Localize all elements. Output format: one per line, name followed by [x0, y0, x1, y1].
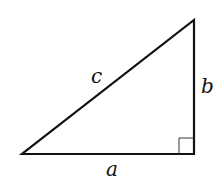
- triangle-shape: [22, 20, 194, 154]
- right-angle-marker: [179, 138, 194, 154]
- hypotenuse-label: c: [91, 64, 102, 88]
- vertical-leg-label: b: [201, 74, 214, 98]
- horizontal-leg-label: a: [106, 157, 118, 181]
- right-triangle-diagram: c b a: [0, 0, 218, 181]
